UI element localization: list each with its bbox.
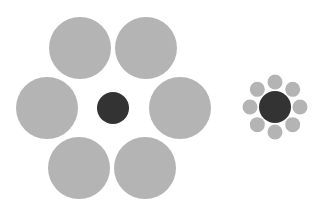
- large-surround-circle: [114, 137, 176, 199]
- center-circle-right: [259, 91, 291, 123]
- small-surround-circle: [293, 100, 308, 115]
- small-surround-group: [243, 75, 308, 140]
- small-surround-circle: [285, 82, 300, 97]
- ebbinghaus-diagram: [0, 0, 322, 215]
- large-surround-circle: [49, 17, 111, 79]
- large-surround-circle: [48, 137, 110, 199]
- small-surround-circle: [250, 82, 265, 97]
- small-surround-circle: [243, 100, 258, 115]
- large-surround-circle: [115, 17, 177, 79]
- large-surround-circle: [16, 77, 78, 139]
- large-surround-group: [16, 17, 211, 199]
- small-surround-circle: [250, 117, 265, 132]
- small-surround-circle: [268, 75, 283, 90]
- small-surround-circle: [285, 117, 300, 132]
- small-surround-circle: [268, 125, 283, 140]
- large-surround-circle: [149, 77, 211, 139]
- center-circle-left: [97, 92, 129, 124]
